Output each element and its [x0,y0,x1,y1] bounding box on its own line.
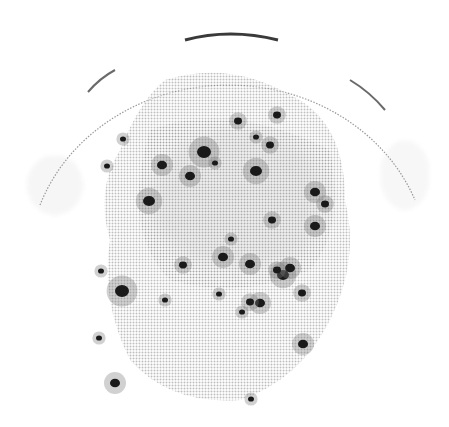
colony-spot [98,268,104,273]
colony-spot [185,172,195,181]
colony-spot [179,262,187,269]
colony-spot [212,160,218,165]
colony-spot [157,161,167,170]
colony-spot [310,188,320,197]
colony-spot [285,264,295,273]
colony-spot [250,166,262,176]
colony-spot [273,267,281,274]
colony-spot [120,136,126,141]
colony-spot [96,335,102,340]
colony-spot [197,146,211,158]
colony-spot [216,291,222,296]
colony-spot [268,217,276,224]
petri-dish-photo [0,0,449,427]
colony-spot [310,222,320,231]
colony-spot [246,299,254,306]
colony-spot [248,396,254,401]
colony-spot [110,379,120,388]
colony-spot [234,118,242,125]
colony-spot [266,142,274,149]
colony-spot [298,290,306,297]
colony-spot [143,196,155,206]
colony-spot [245,260,255,269]
colony-spot [104,163,110,168]
colony-spot [115,285,129,297]
colony-spot [273,112,281,119]
colony-spot [298,340,308,349]
colony-spot [228,236,234,241]
colony-spot [239,309,245,314]
colony-spot [253,134,259,139]
petri-dish-image [0,0,449,427]
colony-spot [321,201,329,208]
colony-spot [218,253,228,262]
colony-spot [162,297,168,302]
